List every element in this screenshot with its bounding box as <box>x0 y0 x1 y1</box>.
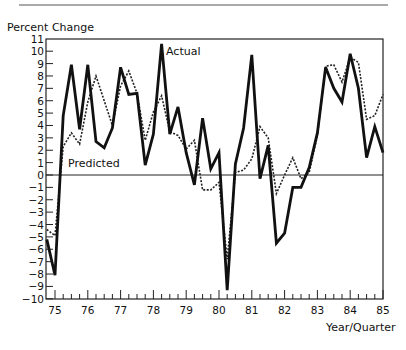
x-tick-label: 78 <box>147 304 160 316</box>
actual-series-label: Actual <box>166 45 200 58</box>
x-tick-label: 80 <box>212 304 225 316</box>
line-chart: Percent Change 11109876543210−1−2−3−4−5−… <box>0 0 406 350</box>
x-axis: 7576777879808182838485 <box>48 290 389 316</box>
y-tick-label: 9 <box>37 58 44 70</box>
x-tick-label: 81 <box>245 304 258 316</box>
x-tick-label: 76 <box>81 304 95 316</box>
x-tick-label: 85 <box>376 304 389 316</box>
x-tick-label: 83 <box>311 304 324 316</box>
y-tick-label: 11 <box>31 33 44 45</box>
y-tick-label: −3 <box>29 206 44 218</box>
x-tick-label: 77 <box>114 304 127 316</box>
y-tick-label: −10 <box>22 293 44 305</box>
y-tick-label: 8 <box>37 70 44 82</box>
y-tick-label: 1 <box>37 157 44 169</box>
y-tick-label: 3 <box>37 132 44 144</box>
predicted-series-label: Predicted <box>68 157 120 170</box>
x-tick-label: 79 <box>180 304 193 316</box>
y-tick-label: −1 <box>29 181 44 193</box>
y-tick-label: −4 <box>29 219 45 231</box>
y-tick-label: −9 <box>29 280 44 292</box>
y-tick-label: 10 <box>31 45 44 57</box>
y-tick-label: 6 <box>37 95 44 107</box>
y-tick-label: 5 <box>37 107 44 119</box>
y-tick-label: 0 <box>37 169 44 181</box>
y-tick-label: −8 <box>29 268 44 280</box>
x-tick-label: 84 <box>344 304 358 316</box>
x-axis-title: Year/Quarter <box>325 321 396 334</box>
y-tick-label: −2 <box>29 194 44 206</box>
y-tick-label: −7 <box>29 256 44 268</box>
y-tick-label: −6 <box>29 243 45 255</box>
y-tick-label: 7 <box>37 82 44 94</box>
y-tick-label: −5 <box>29 231 44 243</box>
y-tick-label: 2 <box>37 144 44 156</box>
y-axis-title: Percent Change <box>7 21 94 34</box>
x-tick-label: 75 <box>48 304 61 316</box>
y-axis: 11109876543210−1−2−3−4−5−6−7−8−9−10 <box>22 33 53 305</box>
x-tick-label: 82 <box>278 304 291 316</box>
y-tick-label: 4 <box>37 119 44 131</box>
